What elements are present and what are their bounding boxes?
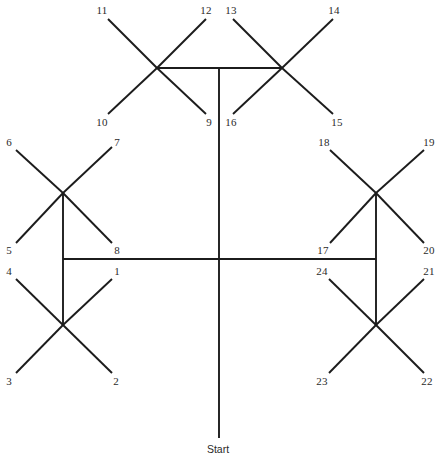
arm-2: [63, 325, 112, 373]
arm-label-14: 14: [328, 5, 339, 16]
arm-1: [63, 279, 112, 325]
arm-label-21: 21: [423, 266, 434, 277]
arm-label-24: 24: [316, 266, 327, 277]
arm-14: [282, 19, 333, 68]
arm-label-6: 6: [6, 137, 12, 148]
maze-diagram-canvas: [0, 0, 444, 459]
start-label: Start: [207, 444, 229, 455]
arm-label-20: 20: [423, 245, 434, 256]
arm-label-8: 8: [114, 245, 120, 256]
arm-label-16: 16: [225, 117, 236, 128]
arm-label-9: 9: [206, 117, 212, 128]
arm-label-2: 2: [113, 376, 119, 387]
arm-group: [16, 19, 424, 373]
arm-8: [63, 193, 112, 243]
maze-figure: 123456789101112131415161718192021222324 …: [0, 0, 444, 459]
arm-23: [329, 325, 376, 373]
arm-label-19: 19: [423, 137, 434, 148]
arm-label-23: 23: [316, 376, 327, 387]
arm-17: [330, 193, 376, 243]
arm-15: [282, 68, 333, 114]
arm-label-22: 22: [421, 376, 432, 387]
arm-label-7: 7: [114, 137, 120, 148]
arm-label-12: 12: [200, 5, 211, 16]
arm-4: [16, 279, 63, 325]
arm-5: [16, 193, 63, 243]
arm-label-17: 17: [317, 245, 328, 256]
arm-13: [233, 19, 282, 68]
arm-19: [376, 150, 424, 193]
arm-11: [108, 19, 157, 68]
arm-10: [108, 68, 157, 114]
trunk-group: [63, 68, 376, 438]
arm-3: [16, 325, 63, 373]
arm-label-18: 18: [318, 137, 329, 148]
arm-label-11: 11: [97, 5, 108, 16]
arm-6: [16, 150, 63, 193]
arm-label-10: 10: [96, 117, 107, 128]
arm-label-3: 3: [6, 376, 12, 387]
arm-7: [63, 147, 112, 193]
arm-label-1: 1: [114, 266, 120, 277]
arm-label-5: 5: [6, 245, 12, 256]
arm-label-13: 13: [225, 5, 236, 16]
arm-9: [157, 68, 206, 114]
arm-20: [376, 193, 424, 243]
arm-label-4: 4: [6, 266, 12, 277]
arm-24: [329, 279, 376, 325]
arm-22: [376, 325, 424, 373]
arm-21: [376, 279, 424, 325]
arm-label-15: 15: [331, 117, 342, 128]
arm-18: [330, 150, 376, 193]
arm-12: [157, 19, 206, 68]
arm-16: [233, 68, 282, 114]
